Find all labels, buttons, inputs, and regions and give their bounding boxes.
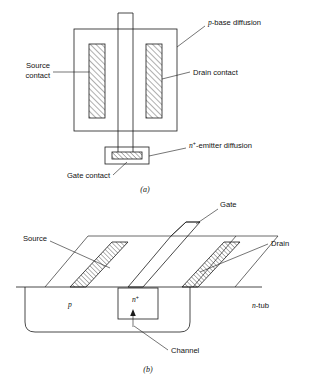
panel-a-group: p-base diffusion Source contact Drain co… [26,13,262,194]
gate-slab-left-edge [171,222,186,236]
gate-label: Gate [220,200,236,209]
gate-contact-label: Gate contact [67,171,111,180]
drain-contact-rect [146,44,162,118]
n-plus-emitter-leader-line [149,148,186,156]
source-metal-region [70,242,128,287]
device-diagram-svg: p-base diffusion Source contact Drain co… [0,0,316,383]
drain-contact-label: Drain contact [193,68,239,77]
panel-b-group: Channel Gate Source Drain p n+ n-tub (b) [16,200,289,374]
p-region-label: p [67,300,72,309]
gate-slab [128,222,200,287]
source-contact-label-line1: Source [26,61,50,70]
source-contact-rect [89,44,105,118]
caption-b: (b) [143,365,153,374]
channel-leader-line [134,326,168,350]
channel-label: Channel [171,346,200,355]
source-label: Source [23,234,47,243]
p-well-boundary [25,287,190,332]
channel-arrow-head [130,309,136,316]
source-contact-label-line2: contact [26,71,51,80]
gate-leader-line [196,209,218,224]
n-tub-label: n-tub [252,301,269,310]
n-plus-emitter-label: n+-emitter diffusion [189,140,252,150]
n-plus-region-box [118,288,158,319]
figure-container: p-base diffusion Source contact Drain co… [0,0,316,383]
p-base-diffusion-label: p-base diffusion [207,18,261,27]
drain-contact-leader-line [162,72,190,79]
n-plus-region-label: n+ [132,294,139,304]
p-base-leader-line [177,26,205,47]
drain-label: Drain [271,239,289,248]
drain-metal-region [182,242,240,287]
caption-a: (a) [140,185,150,194]
n-plus-emitter-strip [112,152,142,159]
